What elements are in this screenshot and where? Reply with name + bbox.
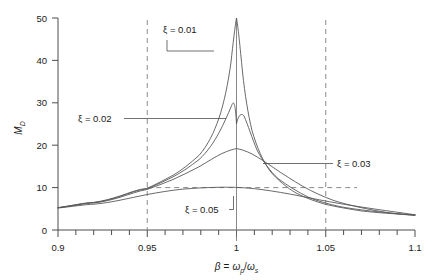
y-tick-label-40: 40 bbox=[36, 55, 47, 66]
annotation-label-xi-0p02: ξ = 0.02 bbox=[78, 113, 112, 124]
x-axis-title-omega-p: ω bbox=[232, 261, 240, 272]
y-tick-label-30: 30 bbox=[36, 97, 47, 108]
x-axis-title-beta: β bbox=[214, 261, 221, 272]
annotation-label-xi-0p05: ξ = 0.05 bbox=[185, 204, 219, 215]
chart-background bbox=[0, 0, 439, 280]
x-axis-title-sub-s: s bbox=[255, 267, 259, 274]
x-axis-title-omega-s: ω bbox=[247, 261, 255, 272]
annotation-label-xi-0p03: ξ = 0.03 bbox=[337, 158, 371, 169]
x-tick-label-1p1: 1.1 bbox=[408, 242, 421, 253]
x-tick-label-1p05: 1.05 bbox=[317, 242, 336, 253]
y-axis-title-sub: D bbox=[19, 121, 26, 126]
magnification-factor-chart: 0 10 20 30 40 50 0.9 0.95 1 1.05 1.1 MD … bbox=[0, 0, 439, 280]
y-tick-label-10: 10 bbox=[36, 182, 47, 193]
chart-figure: 0 10 20 30 40 50 0.9 0.95 1 1.05 1.1 MD … bbox=[0, 0, 439, 280]
y-tick-label-50: 50 bbox=[36, 13, 47, 24]
annotation-label-xi-0p01: ξ = 0.01 bbox=[163, 24, 197, 35]
x-tick-label-0p9: 0.9 bbox=[51, 242, 64, 253]
x-tick-label-1: 1 bbox=[234, 242, 239, 253]
x-tick-label-0p95: 0.95 bbox=[138, 242, 157, 253]
x-axis-title-eq: = bbox=[224, 261, 230, 272]
y-tick-label-0: 0 bbox=[42, 225, 47, 236]
y-tick-label-20: 20 bbox=[36, 140, 47, 151]
